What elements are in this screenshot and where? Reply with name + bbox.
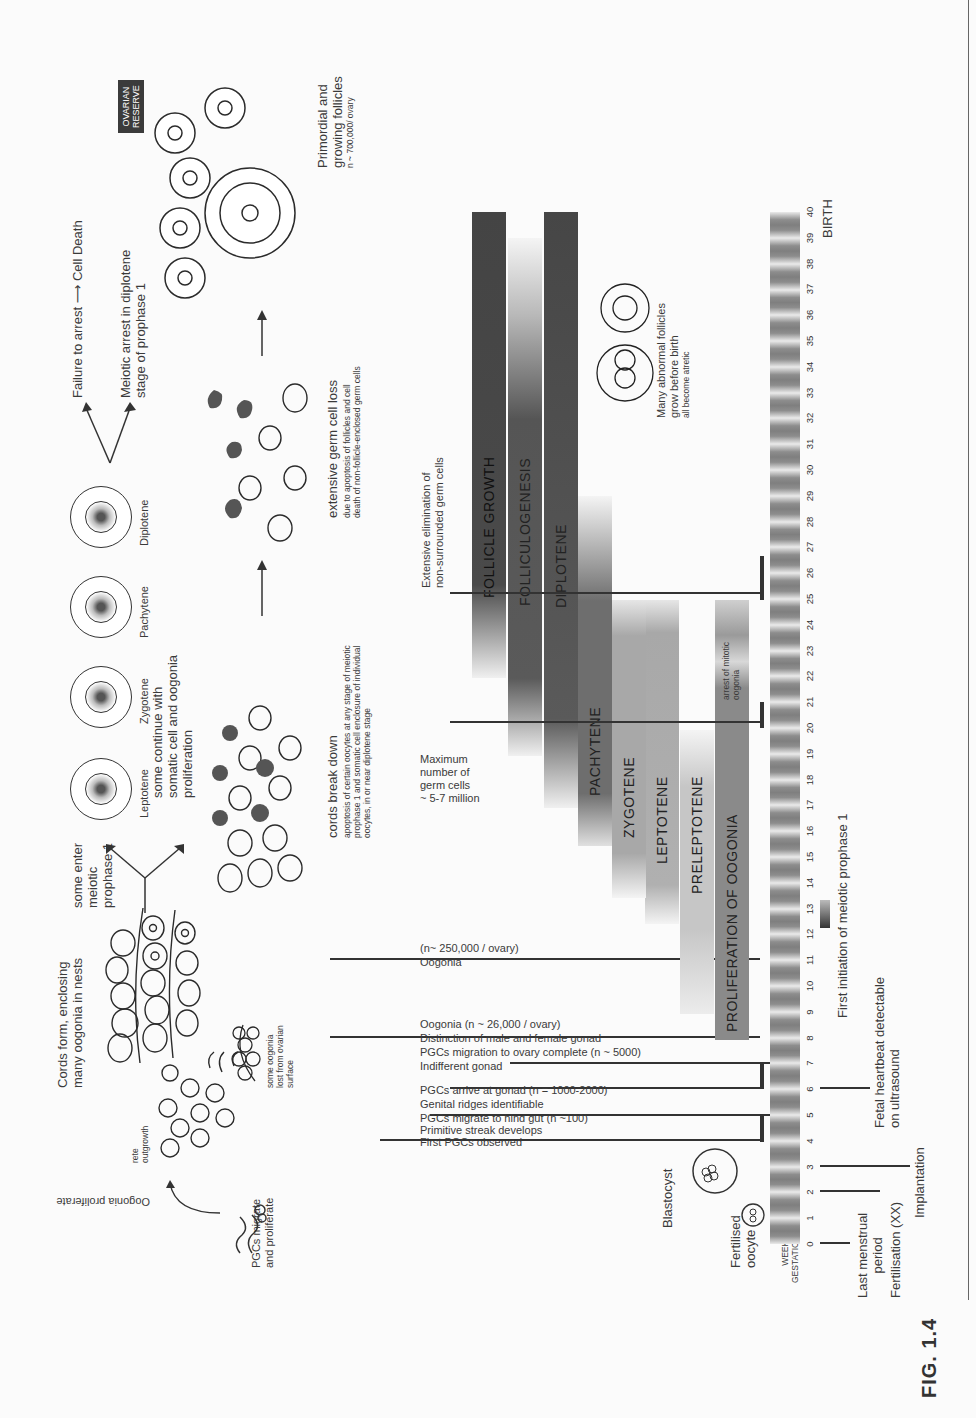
heartbeat-label: Fetal heartbeat detectable on ultrasound: [872, 977, 902, 1128]
arrow-week-3: [820, 1165, 910, 1167]
pachytene-oocyte-icon: [70, 576, 132, 638]
oogonia-lost-label: some oogonia lost from ovarian surface: [265, 1025, 295, 1088]
bar-zygotene: ZYGOTENE: [612, 600, 646, 898]
meiotic-arrest-label: Meiotic arrest in diplotene stage of pro…: [118, 250, 148, 398]
bracket-week-4-5: [760, 1116, 764, 1142]
cords-break-title: cords break down: [325, 735, 340, 838]
implantation-label: Implantation: [912, 1147, 927, 1218]
bar-leptotene: LEPTOTENE: [645, 600, 679, 924]
abnormal-follicles-label: Many abnormal follicles grow before birt…: [655, 303, 691, 418]
week-timeline-strip: [770, 212, 800, 1244]
elimination-label: Extensive elimination of non-surrounded …: [420, 457, 446, 588]
bar-folliculogenesis: FOLLICULOGENESIS: [508, 238, 542, 756]
event-oogonia-250k: (n~ 250,000 / ovary): [420, 942, 650, 955]
event-genital-ridges: Genital ridges identifiable: [420, 1098, 650, 1111]
bar-follicle-growth: FOLLICLE GROWTH: [472, 212, 506, 678]
germ-loss-title: extensive germ cell loss: [325, 380, 340, 518]
event-indifferent-gonad: Indifferent gonad: [420, 1060, 650, 1073]
germ-loss-description: due to apoptosis of follicles and cell d…: [342, 366, 362, 518]
stage-label-pachytene: Pachytene: [138, 586, 151, 638]
meiosis-initiation-marker: [820, 900, 830, 928]
leptotene-oocyte-icon: [70, 758, 132, 820]
germ-cell-loss-icon: [200, 378, 324, 548]
right-arrow-icon: [255, 558, 273, 618]
elimination-line: [450, 592, 760, 594]
arrow-right-glyph: ⟶: [70, 281, 85, 303]
oogonia-proliferate-label: Oogonia proliferate: [56, 1195, 150, 1208]
birth-label: BIRTH: [820, 199, 835, 238]
diplotene-oocyte-icon: [70, 486, 132, 548]
cords-break-description: apoptosis of certain oocytes at any stag…: [342, 645, 372, 838]
arrest-mitotic-note: arrest of mitotic oogonia: [721, 642, 741, 700]
bar-pachytene: PACHYTENE: [578, 496, 612, 846]
zygotene-oocyte-icon: [70, 666, 132, 728]
failure-to-arrest-label: Failure to arrest ⟶ Cell Death: [70, 220, 85, 398]
bracket-week-20-21: [760, 702, 764, 728]
bracket-week-25-27: [760, 556, 764, 600]
abnormal-follicles-icon: [590, 268, 664, 408]
bracket-week-6-7: [760, 1063, 764, 1089]
curved-arrow-icon: [165, 1178, 229, 1218]
max-germ-cells-label: Maximum number of germ cells ~ 5-7 milli…: [420, 753, 490, 805]
event-first-pgcs: First PGCs observed: [420, 1136, 650, 1149]
cords-form-label: Cords form, enclosing many oogonia in ne…: [55, 958, 85, 1088]
branch-arrow-icon: [100, 838, 194, 918]
figure-label: FIG. 1.4: [918, 1318, 941, 1398]
fork-arrow-icon: [80, 398, 144, 468]
meiosis-initiation-label: First initiation of meiotic prophase 1: [835, 814, 850, 1018]
last-menstrual-label: Last menstrual period: [855, 1213, 885, 1298]
stage-label-diplotene: Diplotene: [138, 500, 151, 546]
follicles-cluster-icon: [145, 78, 309, 308]
right-arrow-icon-2: [255, 308, 273, 358]
fertilisation-label: Fertilisation (XX): [888, 1202, 903, 1298]
ovarian-reserve-badge: OVARIAN RESERVE: [118, 80, 144, 133]
primordial-follicles-label: Primordial and growing follicles n ~ 700…: [315, 76, 355, 168]
blastocyst-label: Blastocyst: [660, 1169, 675, 1228]
event-oogonia: Oogonia: [420, 956, 650, 969]
fertilised-label: Fertilised oocyte: [728, 1215, 758, 1268]
figure-frame-line: [968, 0, 969, 1300]
continue-proliferation-label: some continue with somatic cell and oogo…: [150, 655, 195, 798]
arrow-week-2: [820, 1190, 880, 1192]
arrow-week-6: [820, 1087, 870, 1089]
bar-preleptotene: PRELEPTOTENE: [680, 730, 714, 1014]
lost-oogonia-icon: [225, 1023, 269, 1083]
event-hind-gut: PGCs migrate to hind gut (n ~100): [420, 1112, 650, 1125]
figure-canvas: FIG. 1.4 PGCs migrate and proliferate Oo…: [0, 0, 976, 1418]
bar-proliferation-of-oogonia: PROLIFERATION OF OOGONIA arrest of mitot…: [715, 600, 749, 1040]
event-male-female: Distinction of male and female gonad: [420, 1032, 650, 1045]
arrow-week-0: [820, 1242, 850, 1244]
cords-breakdown-cells-icon: [200, 698, 324, 898]
cords-nest-icon: [95, 898, 219, 1068]
max-germ-cells-line: [450, 721, 760, 723]
event-oogonia-26k: Oogonia (n ~ 26,000 / ovary): [420, 1018, 650, 1031]
event-migration-complete: PGCs migration to ovary complete (n ~ 50…: [420, 1046, 650, 1059]
blastocyst-icon: [690, 1146, 744, 1196]
event-primitive-streak: Primitive streak develops: [420, 1124, 650, 1137]
pgc-cells-icon: [230, 1198, 274, 1258]
bar-diplotene: DIPLOTENE: [544, 212, 578, 808]
rete-outgrowth-label: rete outgrowth: [130, 1126, 150, 1163]
event-pgcs-arrive: PGCs arrive at gonad (n = 1000-2000): [420, 1084, 650, 1097]
